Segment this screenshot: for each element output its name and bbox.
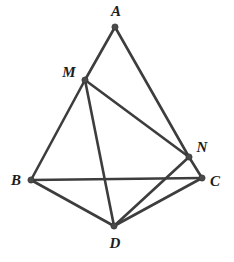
vertex-label-n: N [197, 140, 208, 155]
vertex-point-m [82, 77, 88, 83]
vertex-label-m: M [62, 65, 75, 80]
edge-nc [189, 157, 202, 178]
vertex-point-c [199, 175, 205, 181]
diagram-canvas [0, 0, 234, 262]
vertex-point-n [186, 154, 192, 160]
edge-bd [31, 180, 114, 226]
vertex-label-c: C [210, 174, 220, 189]
vertex-point-b [28, 177, 34, 183]
vertex-label-a: A [111, 4, 121, 19]
edge-an [115, 27, 189, 157]
edge-bc [31, 178, 202, 180]
vertex-point-a [112, 24, 118, 30]
edge-mb [31, 80, 85, 180]
vertex-point-d [111, 223, 117, 229]
vertex-label-d: D [110, 236, 121, 251]
geometry-diagram: AMNBCD [0, 0, 234, 262]
edge-am [85, 27, 115, 80]
vertex-label-b: B [11, 173, 21, 188]
edge-mn [85, 80, 189, 157]
edges-group [31, 27, 202, 226]
vertices-group [28, 24, 205, 229]
edge-md [85, 80, 114, 226]
